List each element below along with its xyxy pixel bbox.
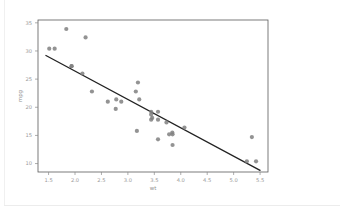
data-point — [119, 100, 123, 104]
data-point — [83, 35, 87, 39]
x-tick-label: 3.5 — [150, 177, 158, 183]
data-point — [114, 107, 118, 111]
scatter-points — [47, 27, 258, 163]
data-point — [250, 135, 254, 139]
regression-line — [46, 55, 260, 170]
y-axis-ticks: 101520253035 — [25, 20, 38, 167]
data-point — [106, 100, 110, 104]
data-point — [53, 47, 57, 51]
screenshot-canvas: 1.52.02.53.03.54.04.55.05.5 101520253035… — [0, 0, 344, 210]
x-tick-label: 4.0 — [177, 177, 185, 183]
data-point — [64, 27, 68, 31]
y-tick-label: 35 — [25, 20, 32, 26]
x-tick-label: 5.0 — [230, 177, 238, 183]
x-tick-label: 4.5 — [203, 177, 211, 183]
data-point — [156, 110, 160, 114]
x-axis-ticks: 1.52.02.53.03.54.04.55.05.5 — [44, 172, 264, 183]
x-tick-label: 5.5 — [256, 177, 264, 183]
matplotlib-figure: 1.52.02.53.03.54.04.55.05.5 101520253035… — [0, 0, 344, 210]
y-tick-label: 25 — [25, 76, 32, 82]
y-tick-label: 30 — [25, 48, 32, 54]
x-axis-label: wt — [150, 185, 157, 191]
data-point — [149, 110, 153, 114]
data-point — [90, 89, 94, 93]
data-point — [136, 80, 140, 84]
data-point — [134, 89, 138, 93]
x-tick-label: 2.0 — [71, 177, 79, 183]
data-point — [254, 159, 258, 163]
data-point — [182, 125, 186, 129]
data-point — [135, 129, 139, 133]
x-tick-label: 3.0 — [124, 177, 132, 183]
y-axis-label: mpg — [17, 90, 24, 102]
x-tick-label: 2.5 — [97, 177, 105, 183]
data-point — [156, 137, 160, 141]
data-point — [137, 97, 141, 101]
y-tick-label: 10 — [25, 160, 32, 166]
regression-line-segment — [46, 55, 260, 170]
data-point — [156, 118, 160, 122]
data-point — [149, 118, 153, 122]
data-point — [170, 143, 174, 147]
data-point — [114, 97, 118, 101]
data-point — [170, 130, 174, 134]
data-point — [80, 71, 84, 75]
data-point — [164, 120, 168, 124]
plot-frame — [38, 20, 268, 172]
y-tick-label: 15 — [25, 132, 32, 138]
y-tick-label: 20 — [25, 104, 32, 110]
x-tick-label: 1.5 — [44, 177, 52, 183]
data-point — [69, 64, 73, 68]
data-point — [245, 159, 249, 163]
data-point — [47, 47, 51, 51]
scatter-plot: 1.52.02.53.03.54.04.55.05.5 101520253035… — [0, 0, 344, 210]
